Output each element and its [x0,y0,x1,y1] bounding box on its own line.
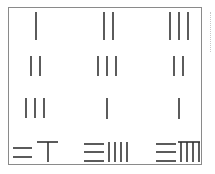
cell-r2-c3 [150,52,210,84]
rod-numeral-1-icon [80,94,140,126]
rod-numeral-34-icon [82,138,142,170]
rod-numeral-1-icon [150,94,210,126]
rod-numeral-3-icon [150,10,210,42]
cell-r2-c2 [80,52,140,84]
cell-r1-c2 [80,10,140,42]
cell-r1-c1 [6,10,66,42]
rod-numeral-39-icon [154,138,214,170]
cell-r1-c3 [150,10,210,42]
rod-numeral-3-icon [80,52,140,84]
cell-r3-c2 [80,94,140,126]
rod-numeral-26-icon [10,138,70,170]
edge-marks [210,12,213,52]
rod-numeral-2-icon [80,10,140,42]
cell-r4-c1 [10,138,70,170]
rod-numeral-3-icon [6,94,66,126]
cell-r4-c3 [154,138,214,170]
rod-numeral-2-icon [6,52,66,84]
cell-r2-c1 [6,52,66,84]
cell-r3-c1 [6,94,66,126]
cell-r3-c3 [150,94,210,126]
rod-numeral-1-icon [6,10,66,42]
rod-numeral-2-icon [150,52,210,84]
cell-r4-c2 [82,138,142,170]
